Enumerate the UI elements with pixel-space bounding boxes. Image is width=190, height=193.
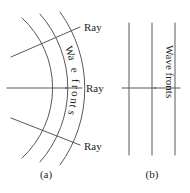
- wavefront-label-char: r: [70, 85, 82, 89]
- ray-lower-label: Ray: [84, 140, 102, 152]
- wavefront-label-char: f: [70, 79, 82, 83]
- panel-a-caption: (a): [40, 168, 53, 181]
- ray-middle-label: Ray: [86, 82, 104, 94]
- wavefront-figure: Ray Ray Ray W a v e f r o n t s (a): [0, 0, 190, 193]
- panel-b-wavefront-label: Wave fronts: [164, 45, 176, 98]
- ray-upper-label: Ray: [84, 21, 102, 33]
- panel-b-caption: (b): [146, 168, 159, 181]
- ray-middle-marker: [65, 87, 67, 89]
- figure-canvas: Ray Ray Ray W a v e f r o n t s (a): [0, 0, 190, 193]
- panel-b-ray-marker: [154, 87, 156, 89]
- wavefront-label-char: v: [0, 0, 6, 2]
